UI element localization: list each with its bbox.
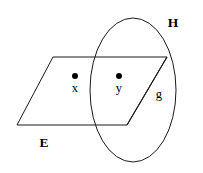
- point-y-label: y: [116, 82, 122, 95]
- plane-e-label: E: [39, 136, 48, 150]
- point-y-dot: [116, 73, 122, 79]
- point-x-label: x: [72, 82, 78, 95]
- plane-h-label: H: [168, 16, 179, 30]
- line-g-label: g: [156, 88, 162, 101]
- geometry-diagram: E H x y g: [0, 0, 203, 173]
- point-x-dot: [72, 73, 78, 79]
- plane-h-shape: [90, 18, 176, 162]
